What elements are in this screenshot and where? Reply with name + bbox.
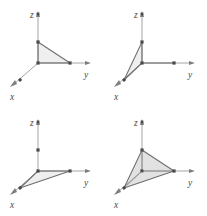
x-axis-arrowhead xyxy=(114,80,121,87)
z-axis-label: z xyxy=(29,10,34,20)
x-axis-arrowhead xyxy=(10,80,17,87)
node-y-unit xyxy=(68,169,71,172)
node-z-unit xyxy=(140,148,143,151)
z-axis-label: z xyxy=(29,118,34,128)
node-origin xyxy=(140,61,143,64)
node-y-unit xyxy=(172,61,175,64)
node-y-unit xyxy=(172,169,175,172)
x-axis-arrowhead xyxy=(114,188,121,195)
y-axis-label: y xyxy=(187,178,193,188)
x-axis-arrowhead xyxy=(10,188,17,195)
node-z-axis-tip xyxy=(37,121,40,124)
y-axis-label: y xyxy=(83,178,89,188)
node-origin xyxy=(36,61,39,64)
x-axis-line xyxy=(14,63,38,84)
node-z-unit xyxy=(36,40,39,43)
x-axis-label: x xyxy=(9,200,15,210)
x-axis-label: x xyxy=(9,92,15,102)
z-axis-label: z xyxy=(133,10,138,20)
z-axis-label: z xyxy=(133,118,138,128)
panel-2-xz-face: z y x xyxy=(104,0,207,108)
panel-3-xy-face: z y x xyxy=(0,108,103,216)
panel-1-yz-face: z y x xyxy=(0,0,103,108)
node-z-axis-tip xyxy=(141,121,144,124)
node-origin xyxy=(140,169,143,172)
node-z-axis-tip xyxy=(141,13,144,16)
y-axis-arrowhead xyxy=(85,61,91,65)
y-axis-arrowhead xyxy=(85,169,91,173)
x-axis-label: x xyxy=(113,200,119,210)
y-axis-label: y xyxy=(83,70,89,80)
y-axis-label: y xyxy=(187,70,193,80)
node-y-unit xyxy=(68,61,71,64)
node-z-unit xyxy=(36,148,39,151)
y-axis-arrowhead xyxy=(189,169,195,173)
y-axis-arrowhead xyxy=(189,61,195,65)
node-origin xyxy=(36,169,39,172)
node-z-axis-tip xyxy=(37,13,40,16)
x-axis-label: x xyxy=(113,92,119,102)
figure-root: z y x z y x xyxy=(0,0,207,216)
node-z-unit xyxy=(140,40,143,43)
panel-4-full-simplex: z y x xyxy=(104,108,207,216)
node-x-unit xyxy=(18,78,22,82)
